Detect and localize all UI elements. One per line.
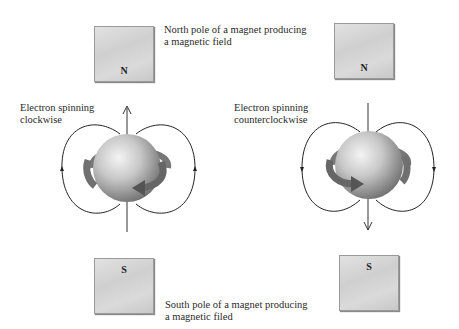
field-arrowhead [60,166,64,171]
field-arrowhead [193,166,197,171]
electron-sphere [335,131,403,199]
field-arrowhead [300,167,304,172]
electron-sphere [93,134,161,202]
electron-counterclockwise [300,103,436,230]
electron-clockwise [60,106,197,232]
field-arrowhead [432,167,436,172]
electron-spin-diagram [0,0,459,329]
